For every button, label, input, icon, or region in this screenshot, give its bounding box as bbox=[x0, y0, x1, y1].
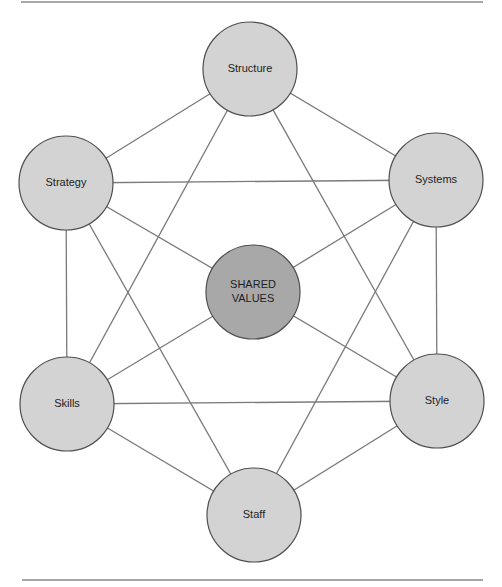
node-label: Structure bbox=[228, 62, 273, 74]
node-label: Style bbox=[425, 394, 449, 406]
node-label: Systems bbox=[415, 173, 458, 185]
node-label: VALUES bbox=[232, 292, 275, 304]
edge-skills-style bbox=[67, 401, 437, 404]
node-structure: Structure bbox=[203, 22, 297, 116]
node-label: Staff bbox=[243, 508, 266, 520]
node-style: Style bbox=[390, 354, 484, 448]
nodes: StructureStrategySystemsSHAREDVALUESSkil… bbox=[19, 22, 484, 562]
edge-strategy-systems bbox=[66, 180, 436, 183]
node-label: Strategy bbox=[46, 176, 87, 188]
seven-s-diagram: StructureStrategySystemsSHAREDVALUESSkil… bbox=[0, 0, 502, 587]
node-systems: Systems bbox=[389, 133, 483, 227]
node-skills: Skills bbox=[20, 357, 114, 451]
node-staff: Staff bbox=[207, 468, 301, 562]
node-label: Skills bbox=[54, 397, 80, 409]
edge-systems-staff bbox=[254, 180, 436, 515]
node-label: SHARED bbox=[230, 278, 276, 290]
node-strategy: Strategy bbox=[19, 136, 113, 230]
node-shared-values: SHAREDVALUES bbox=[206, 245, 300, 339]
